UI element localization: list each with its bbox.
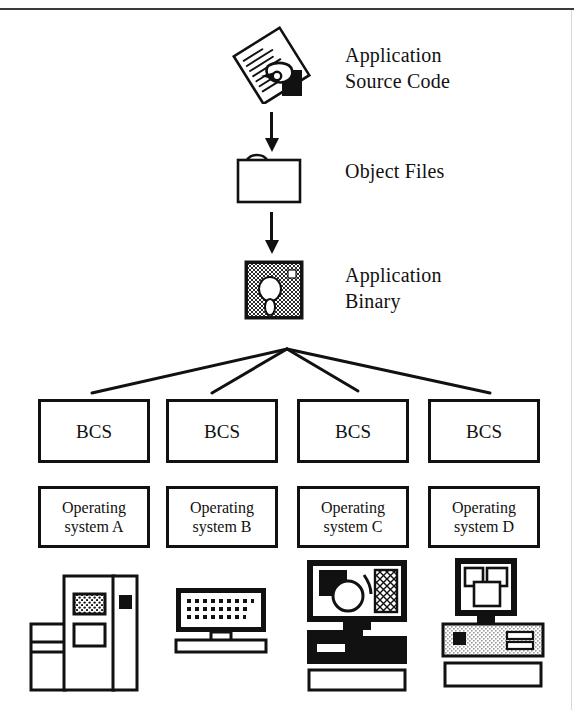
- bcs-box-label: BCS: [466, 421, 502, 442]
- graphics-workstation-icon: [303, 558, 411, 692]
- page-right-rule: [571, 10, 572, 710]
- operating-system-label: Operating system B: [190, 498, 254, 536]
- operating-system-label: Operating system A: [62, 498, 126, 536]
- operating-system-box-d: Operating system D: [428, 486, 540, 548]
- fanout-branch-3: [287, 349, 358, 391]
- operating-system-box-c: Operating system C: [297, 486, 409, 548]
- hand-writing-document-icon: [228, 26, 314, 104]
- bcs-box-1: BCS: [38, 399, 150, 463]
- application-source-code-label: Application Source Code: [345, 42, 450, 94]
- bcs-box-label: BCS: [204, 421, 240, 442]
- fanout-branch-2: [212, 349, 287, 393]
- bcs-box-2: BCS: [166, 399, 278, 463]
- operating-system-label: Operating system D: [452, 498, 516, 536]
- bcs-box-label: BCS: [76, 421, 112, 442]
- page-top-rule: [0, 8, 574, 10]
- mainframe-computer-icon: [28, 566, 140, 696]
- operating-system-box-b: Operating system B: [166, 486, 278, 548]
- operating-system-label: Operating system C: [321, 498, 385, 536]
- object-files-label: Object Files: [345, 158, 445, 184]
- diagram-canvas: Application Source Code Object Files: [0, 0, 574, 722]
- bcs-box-4: BCS: [428, 399, 540, 463]
- floppy-disk-icon: [243, 259, 305, 321]
- fanout-branch-1: [92, 349, 287, 393]
- bcs-box-3: BCS: [297, 399, 409, 463]
- bcs-box-label: BCS: [335, 421, 371, 442]
- application-binary-label: Application Binary: [345, 262, 442, 314]
- folder-icon: [233, 148, 307, 206]
- fanout-branch-4: [287, 349, 490, 393]
- personal-computer-icon: [441, 556, 545, 694]
- desktop-terminal-icon: [170, 586, 274, 656]
- operating-system-box-a: Operating system A: [38, 486, 150, 548]
